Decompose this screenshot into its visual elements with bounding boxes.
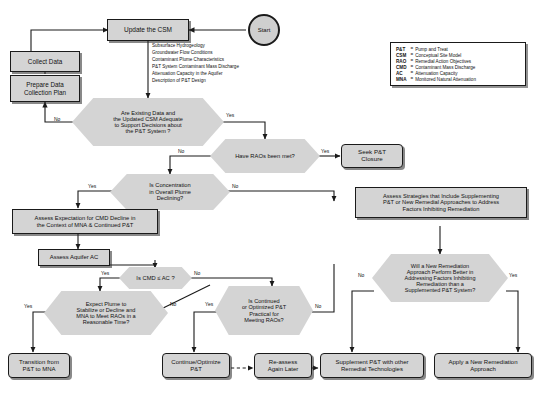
edge-label-plume-no: No xyxy=(170,301,176,307)
node-reassess-later[interactable]: Re-assess Again Later xyxy=(254,353,312,378)
node-continue-optimize[interactable]: Continue/Optimize P&T xyxy=(162,353,230,378)
edge-label-conc-yes: Yes xyxy=(88,183,96,189)
node-apply-new-approach[interactable]: Apply a New Remediation Approach xyxy=(434,353,532,378)
node-supplement-pt[interactable]: Supplement P&T with other Remedial Techn… xyxy=(320,353,424,378)
edge-label-practical-no: No xyxy=(315,303,321,309)
legend-row: MNA=Monitored Natural Attenuation xyxy=(396,76,478,82)
edge-label-cmd-yes: Yes xyxy=(101,270,109,276)
legend-box: P&T=Pump and TreatCSM=Conceptual Site Mo… xyxy=(390,42,526,86)
node-update-csm[interactable]: Update the CSM xyxy=(107,19,189,41)
edge-cmd-no xyxy=(190,278,272,286)
csm-note-item: Groundwater Flow Conditions xyxy=(152,50,239,57)
node-cmd-le-ac[interactable]: Is CMD ≤ AC ? xyxy=(119,267,192,289)
node-assess-strategies[interactable]: Assess Strategies that Include Supplemen… xyxy=(355,187,527,218)
edge-conc-no xyxy=(228,191,334,201)
edge-label-adequate-no: No xyxy=(54,116,60,122)
node-cmd-le-ac-label: Is CMD ≤ AC ? xyxy=(119,267,192,289)
node-new-remediation-better[interactable]: Will a New Remediation Approach Perform … xyxy=(372,254,508,302)
node-raos-met-label: Have RAOs been met? xyxy=(210,139,320,173)
edge-raos-no xyxy=(170,156,212,174)
legend-table: P&T=Pump and TreatCSM=Conceptual Site Mo… xyxy=(396,46,478,82)
node-prepare-plan[interactable]: Prepare Data Collection Plan xyxy=(10,75,80,102)
node-continued-practical-label: Is Continued or Optimized P&T Practical … xyxy=(215,286,313,335)
node-start[interactable]: Start xyxy=(248,14,280,46)
edge-label-new-no: No xyxy=(358,272,364,278)
edge-label-raos-yes: Yes xyxy=(321,148,329,154)
node-conc-declining[interactable]: Is Concentration in Overall Plume Declin… xyxy=(110,174,230,210)
csm-note-item: Contaminant Plume Characteristics xyxy=(152,57,239,64)
node-new-remediation-better-label: Will a New Remediation Approach Perform … xyxy=(372,254,508,302)
node-collect-data[interactable]: Collect Data xyxy=(10,51,80,72)
edge-conc-yes xyxy=(78,191,112,208)
node-seek-closure[interactable]: Seek P&T Closure xyxy=(341,144,403,168)
node-raos-met[interactable]: Have RAOs been met? xyxy=(210,139,320,173)
legend-definition: Contaminant Mass Discharge xyxy=(415,64,478,70)
edge-adequate-yes xyxy=(222,122,265,139)
node-expect-plume[interactable]: Expect Plume to Stabilize or Decline and… xyxy=(44,291,168,335)
node-expect-plume-label: Expect Plume to Stabilize or Decline and… xyxy=(44,291,168,335)
edge-label-conc-no: No xyxy=(232,183,238,189)
csm-note-list: Subsurface HydrogeologyGroundwater Flow … xyxy=(152,43,239,85)
edge-label-adequate-yes: Yes xyxy=(226,112,234,118)
node-assess-aquifer-ac[interactable]: Assess Aquifer AC xyxy=(38,249,110,266)
legend-definition: Remedial Action Objectives xyxy=(415,58,478,64)
edge-label-cmd-no: No xyxy=(194,270,200,276)
node-assess-expectation[interactable]: Assess Expectation for CMD Decline in th… xyxy=(12,209,158,234)
edge-cmd-yes xyxy=(100,278,121,291)
csm-note-item: P&T System Contaminant Mass Discharge xyxy=(152,64,239,71)
edge-label-plume-yes: Yes xyxy=(24,303,32,309)
legend-definition: Monitored Natural Attenuation xyxy=(415,76,478,82)
edge-label-raos-no: No xyxy=(178,148,184,154)
node-data-adequate[interactable]: Are Existing Data and the Updated CSM Ad… xyxy=(72,98,224,146)
csm-note-item: Attenuation Capacity in the Aquifer xyxy=(152,71,239,78)
node-transition-mna[interactable]: Transition from P&T to MNA xyxy=(8,353,70,378)
edge-label-practical-yes: Yes xyxy=(205,301,213,307)
edge-label-new-yes: Yes xyxy=(509,272,517,278)
legend-abbr: MNA xyxy=(396,76,408,82)
csm-note-item: Subsurface Hydrogeology xyxy=(152,43,239,50)
node-data-adequate-label: Are Existing Data and the Updated CSM Ad… xyxy=(72,98,224,146)
edge-new-no xyxy=(352,291,374,352)
flowchart-canvas: Start Update the CSM Collect Data Prepar… xyxy=(0,0,538,398)
legend-equals: = xyxy=(408,76,415,82)
node-continued-practical[interactable]: Is Continued or Optimized P&T Practical … xyxy=(215,286,313,335)
csm-note-item: Description of P&T Design xyxy=(152,78,239,85)
edge-collect-to-update xyxy=(31,30,108,51)
node-conc-declining-label: Is Concentration in Overall Plume Declin… xyxy=(110,174,230,210)
